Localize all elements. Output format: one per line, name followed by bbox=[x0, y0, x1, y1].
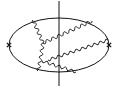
gluon-lines bbox=[32, 20, 108, 73]
gluon-upper-diagonal-wavy-line bbox=[43, 21, 92, 44]
gluon-middle-diagonal-wavy-line bbox=[48, 39, 108, 61]
gluon-left-lower-wavy-line bbox=[39, 43, 44, 62]
gluon-left-upper-wavy-line bbox=[32, 20, 44, 43]
feynman-diagram bbox=[0, 0, 118, 87]
